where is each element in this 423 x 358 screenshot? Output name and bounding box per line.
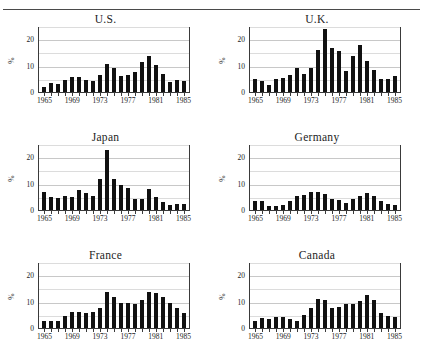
bar	[260, 81, 264, 92]
bar	[49, 83, 53, 92]
y-tick-label: 20	[18, 272, 34, 280]
bar	[133, 199, 137, 210]
x-tick-label: 1973	[304, 332, 319, 342]
panel-uk: U.K.%01020196519691973197719811985	[211, 12, 423, 130]
x-tick-label: 1981	[148, 96, 163, 106]
y-tick-label: 0	[229, 89, 245, 97]
bar	[77, 312, 81, 328]
bar	[126, 188, 130, 210]
bar	[126, 75, 130, 92]
y-axis-label: %	[7, 54, 16, 68]
bar	[379, 201, 383, 210]
x-tick-label: 1981	[359, 96, 374, 106]
plot-area: %01020196519691973197719811985	[211, 145, 423, 231]
bar	[70, 77, 74, 92]
bar	[98, 179, 102, 210]
bar	[161, 297, 165, 328]
y-tick-label: 20	[18, 36, 34, 44]
bar	[140, 62, 144, 92]
bar	[84, 193, 88, 210]
x-tick-labels: 196519691973197719811985	[249, 332, 401, 344]
x-tick-label: 1965	[248, 214, 263, 224]
axes-box	[249, 145, 401, 211]
bar	[140, 300, 144, 329]
bar	[309, 192, 313, 210]
bar	[91, 81, 95, 92]
plot-area: %01020196519691973197719811985	[211, 263, 423, 349]
bar	[309, 68, 313, 92]
x-tick-label: 1977	[120, 96, 135, 106]
x-tick-label: 1977	[331, 96, 346, 106]
bar	[253, 201, 257, 210]
x-tick-label: 1981	[359, 332, 374, 342]
bar	[253, 79, 257, 92]
bar-series	[250, 145, 400, 210]
y-tick-labels: 01020	[227, 263, 245, 329]
y-tick-label: 10	[229, 63, 245, 71]
bar	[274, 79, 278, 92]
bar	[365, 295, 369, 328]
bar	[77, 190, 81, 210]
y-axis-label: %	[218, 290, 227, 304]
x-tick-label: 1977	[331, 332, 346, 342]
plot-area: %01020196519691973197719811985	[211, 27, 423, 113]
y-tick-label: 0	[18, 89, 34, 97]
bar	[351, 304, 355, 328]
bar	[330, 308, 334, 328]
bar	[56, 84, 60, 92]
panel-title: U.S.	[0, 12, 211, 27]
bar	[49, 321, 53, 328]
bar	[161, 74, 165, 92]
bar	[84, 80, 88, 92]
bar	[358, 45, 362, 92]
bar	[63, 196, 67, 210]
bar	[316, 299, 320, 328]
y-tick-label: 10	[229, 299, 245, 307]
bar	[168, 303, 172, 328]
bar	[91, 312, 95, 328]
x-tick-label: 1977	[120, 214, 135, 224]
bar	[302, 195, 306, 210]
x-tick-label: 1973	[304, 96, 319, 106]
panel-title: U.K.	[211, 12, 423, 27]
x-tick-label: 1973	[93, 214, 108, 224]
x-tick-label: 1985	[387, 96, 402, 106]
bar	[154, 65, 158, 92]
y-tick-labels: 01020	[16, 145, 34, 211]
bar	[105, 292, 109, 328]
bar	[56, 321, 60, 328]
bar-series	[39, 145, 189, 210]
plot-area: %01020196519691973197719811985	[0, 27, 211, 113]
bar	[56, 198, 60, 210]
bar	[70, 197, 74, 210]
bar	[379, 79, 383, 92]
bar	[182, 204, 186, 210]
bar	[344, 203, 348, 210]
plot-area: %01020196519691973197719811985	[0, 145, 211, 231]
bar	[126, 303, 130, 328]
bar	[154, 197, 158, 210]
x-tick-label: 1985	[176, 96, 191, 106]
bar	[295, 68, 299, 92]
panel-france: France%01020196519691973197719811985	[0, 248, 211, 358]
x-tick-label: 1965	[248, 96, 263, 106]
panel-canada: Canada%01020196519691973197719811985	[211, 248, 423, 358]
bar	[274, 317, 278, 328]
y-tick-label: 10	[229, 181, 245, 189]
y-tick-label: 0	[229, 207, 245, 215]
bar	[77, 77, 81, 92]
x-tick-label: 1965	[37, 214, 52, 224]
bar	[330, 48, 334, 92]
y-tick-label: 0	[18, 325, 34, 333]
x-tick-label: 1973	[93, 96, 108, 106]
axes-box	[249, 27, 401, 93]
panel-title: Canada	[211, 248, 423, 263]
bar	[260, 201, 264, 211]
panel-us: U.S.%01020196519691973197719811985	[0, 12, 211, 130]
bar	[323, 194, 327, 210]
bar-series	[250, 27, 400, 92]
bar	[309, 308, 313, 328]
y-tick-label: 20	[229, 154, 245, 162]
bar	[393, 317, 397, 328]
bar	[274, 206, 278, 210]
